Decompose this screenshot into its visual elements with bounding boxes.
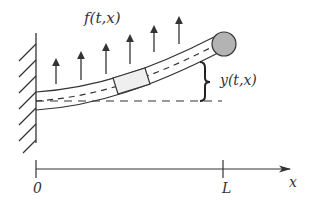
deflection-brace [200, 62, 210, 101]
axis-label: x [289, 175, 297, 189]
deflection-label: y(t,x) [220, 73, 257, 87]
cantilever-beam-diagram [0, 0, 311, 205]
x-axis [36, 160, 290, 178]
distributed-force-arrows [56, 20, 179, 84]
beam-element [113, 68, 150, 94]
length-label: L [222, 181, 231, 195]
origin-label: 0 [33, 181, 42, 195]
force-label: f(t,x) [84, 11, 121, 26]
wall-hatching [19, 44, 36, 153]
fixed-wall [19, 33, 36, 153]
tip-mass [212, 32, 236, 56]
